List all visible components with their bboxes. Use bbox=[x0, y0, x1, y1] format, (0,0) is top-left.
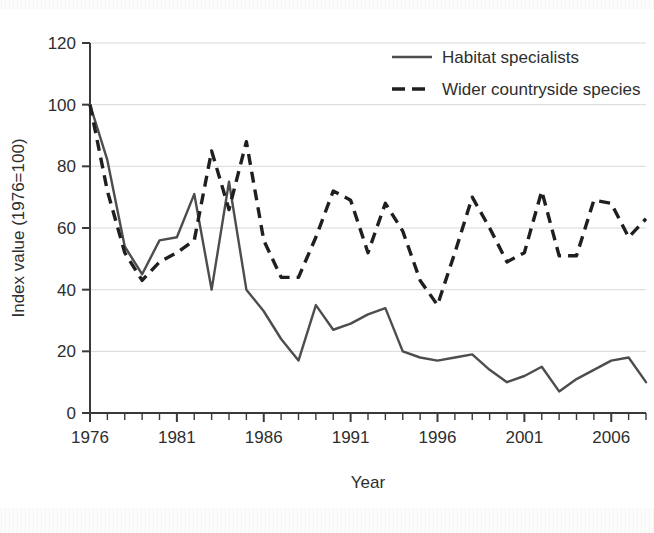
x-axis-title: Year bbox=[351, 473, 386, 492]
x-tick-label-2001: 2001 bbox=[505, 428, 543, 447]
chart-svg: 020406080100120 197619811986199119962001… bbox=[0, 0, 654, 533]
y-tick-label-40: 40 bbox=[57, 281, 76, 300]
y-tick-label-120: 120 bbox=[48, 34, 76, 53]
x-tick-label-1976: 1976 bbox=[71, 428, 109, 447]
x-tick-label-1986: 1986 bbox=[245, 428, 283, 447]
y-axis-title: Index value (1976=100) bbox=[9, 138, 28, 317]
data-series-layer bbox=[90, 105, 646, 392]
y-tick-label-60: 60 bbox=[57, 219, 76, 238]
y-tick-label-0: 0 bbox=[67, 404, 76, 423]
line-chart-figure: 020406080100120 197619811986199119962001… bbox=[0, 0, 654, 533]
figure-page: 020406080100120 197619811986199119962001… bbox=[0, 0, 654, 533]
x-tick-label-1981: 1981 bbox=[158, 428, 196, 447]
y-tick-label-20: 20 bbox=[57, 342, 76, 361]
y-axis-ticks: 020406080100120 bbox=[48, 34, 90, 423]
x-tick-label-1991: 1991 bbox=[332, 428, 370, 447]
x-tick-label-1996: 1996 bbox=[419, 428, 457, 447]
series-line-wider-countryside-species bbox=[90, 105, 646, 305]
legend-label-wider-countryside-species: Wider countryside species bbox=[442, 80, 640, 99]
y-tick-label-100: 100 bbox=[48, 96, 76, 115]
legend-label-habitat-specialists: Habitat specialists bbox=[442, 48, 579, 67]
y-tick-label-80: 80 bbox=[57, 157, 76, 176]
x-axis-ticks: 1976198119861991199620012006 bbox=[71, 413, 646, 447]
x-tick-label-2006: 2006 bbox=[592, 428, 630, 447]
chart-legend: Habitat specialists Wider countryside sp… bbox=[392, 48, 640, 99]
